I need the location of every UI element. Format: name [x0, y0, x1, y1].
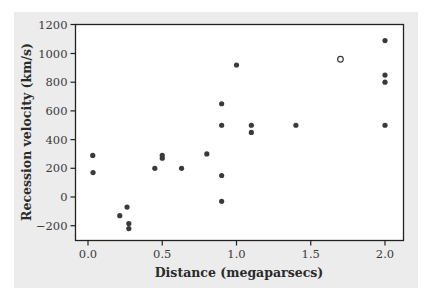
- x-tick-label: 2.0: [376, 247, 394, 261]
- y-tick-label: 1200: [38, 18, 67, 32]
- data-point: [293, 123, 298, 128]
- y-tick-label: 800: [46, 75, 68, 89]
- data-point: [234, 62, 239, 67]
- data-point: [160, 156, 165, 161]
- data-point: [382, 38, 387, 43]
- data-point: [90, 153, 95, 158]
- data-point: [126, 226, 131, 231]
- x-tick-label: 0.5: [153, 247, 171, 261]
- data-point: [219, 199, 224, 204]
- y-tick-label: 200: [46, 161, 68, 175]
- x-tick-label: 1.5: [302, 247, 320, 261]
- data-point: [219, 173, 224, 178]
- y-tick-label: −200: [36, 219, 68, 233]
- data-point: [179, 166, 184, 171]
- x-tick-label: 1.0: [227, 247, 245, 261]
- data-point: [117, 213, 122, 218]
- data-point: [249, 123, 254, 128]
- y-axis-title: Recession velocity (km/s): [19, 43, 34, 221]
- y-tick-label: 600: [46, 104, 68, 118]
- data-point: [382, 80, 387, 85]
- x-tick-label: 0.0: [79, 247, 97, 261]
- data-point: [382, 123, 387, 128]
- data-point: [219, 123, 224, 128]
- data-point: [126, 221, 131, 226]
- data-point: [124, 204, 129, 209]
- y-tick-label: 0: [60, 190, 67, 204]
- data-point: [249, 130, 254, 135]
- open-data-point: [338, 56, 344, 62]
- y-tick-label: 1000: [38, 47, 67, 61]
- x-axis-title: Distance (megaparsecs): [155, 265, 323, 280]
- data-point: [152, 166, 157, 171]
- y-axis-ticks: −200020040060080010001200: [36, 18, 76, 233]
- y-tick-label: 400: [46, 133, 68, 147]
- x-axis-ticks: 0.00.51.01.52.0: [79, 241, 394, 261]
- data-point: [219, 101, 224, 106]
- data-point: [204, 151, 209, 156]
- scatter-chart: 0.00.51.01.52.0 −20002004006008001000120…: [0, 0, 425, 301]
- data-point: [382, 72, 387, 77]
- data-point: [90, 170, 95, 175]
